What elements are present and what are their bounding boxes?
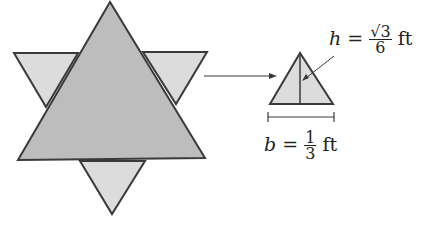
height-label: h = √36 ft xyxy=(329,24,412,55)
small-triangle-bottom xyxy=(80,161,145,214)
arrow xyxy=(204,73,277,79)
base-dimension-line xyxy=(268,112,334,122)
magnified-triangle xyxy=(270,53,333,104)
base-label: b = 13 ft xyxy=(264,130,337,161)
